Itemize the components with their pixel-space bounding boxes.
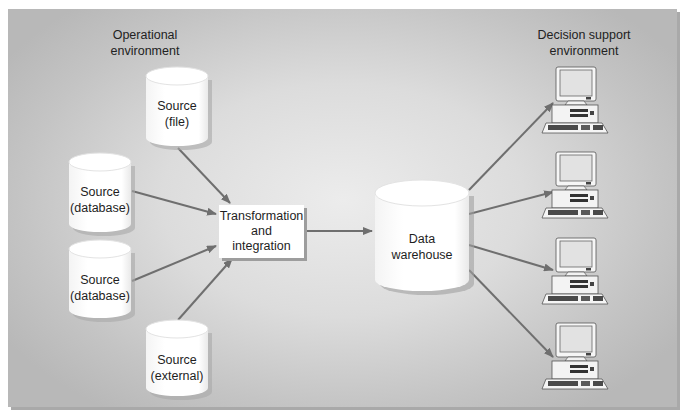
node-label-line: Source bbox=[143, 352, 211, 368]
arrow-file-to-transformation bbox=[178, 148, 230, 203]
node-label-line: and bbox=[220, 224, 304, 239]
source-database-2-label: Source (database) bbox=[66, 272, 134, 304]
node-label-line: Source bbox=[66, 184, 134, 200]
arrow-warehouse-to-workstation-2 bbox=[469, 192, 553, 214]
arrow-external-to-transformation bbox=[178, 259, 232, 320]
data-warehouse-label: Data warehouse bbox=[375, 231, 469, 263]
desktop-computer-icon bbox=[542, 67, 608, 133]
node-label-line: (file) bbox=[146, 114, 208, 130]
heading-line: Operational bbox=[90, 27, 200, 43]
arrow-warehouse-to-workstation-3 bbox=[469, 245, 553, 270]
arrow-warehouse-to-workstation-4 bbox=[469, 270, 553, 357]
node-label-line: Source bbox=[66, 272, 134, 288]
heading-line: environment bbox=[519, 43, 649, 59]
desktop-computer-icon bbox=[542, 238, 608, 304]
node-label-line: Data bbox=[375, 231, 469, 247]
node-label-line: (database) bbox=[66, 200, 134, 216]
node-label-line: (database) bbox=[66, 288, 134, 304]
node-label-line: Source bbox=[146, 98, 208, 114]
edges-warehouse-to-clients bbox=[469, 103, 553, 357]
arrow-database1-to-transformation bbox=[132, 191, 216, 214]
node-label-line: integration bbox=[220, 239, 304, 254]
node-label-line: (external) bbox=[143, 368, 211, 384]
arrow-database2-to-transformation bbox=[132, 246, 216, 281]
source-external-label: Source (external) bbox=[143, 352, 211, 384]
source-file-label: Source (file) bbox=[146, 98, 208, 130]
arrow-warehouse-to-workstation-1 bbox=[469, 103, 553, 190]
transformation-integration-box: Transformation and integration bbox=[219, 205, 304, 258]
heading-line: environment bbox=[90, 43, 200, 59]
source-database-1-label: Source (database) bbox=[66, 184, 134, 216]
desktop-computer-icon bbox=[542, 152, 608, 218]
operational-environment-heading: Operational environment bbox=[90, 27, 200, 59]
edges-sources-to-transformation bbox=[132, 148, 232, 320]
node-label-line: warehouse bbox=[375, 247, 469, 263]
node-label-line: Transformation bbox=[220, 209, 304, 224]
heading-line: Decision support bbox=[519, 27, 649, 43]
decision-support-environment-heading: Decision support environment bbox=[519, 27, 649, 59]
